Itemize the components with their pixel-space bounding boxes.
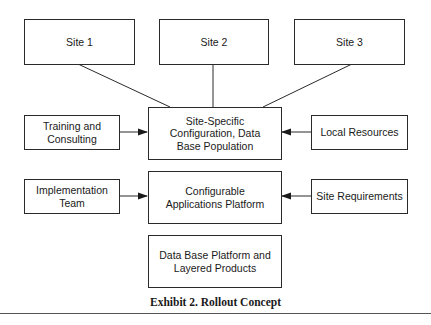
implementation-team-box: Implementation Team <box>24 179 120 214</box>
database-platform-box: Data Base Platform and Layered Products <box>148 235 282 288</box>
site-1-label: Site 1 <box>66 36 93 49</box>
site-requirements-box: Site Requirements <box>311 179 408 214</box>
site-3-label: Site 3 <box>336 36 363 49</box>
site-specific-config-box: Site-Specific Configuration, Data Base P… <box>148 107 282 160</box>
caption-rule-divider <box>0 313 431 314</box>
site-2-label: Site 2 <box>201 36 228 49</box>
training-consulting-box: Training and Consulting <box>24 115 120 150</box>
connector-site1 <box>78 64 170 107</box>
configurable-platform-box: Configurable Applications Platform <box>148 171 282 224</box>
figure-caption: Exhibit 2. Rollout Concept <box>0 296 431 308</box>
site-2-box: Site 2 <box>159 19 269 65</box>
local-resources-box: Local Resources <box>311 115 408 150</box>
site-requirements-label: Site Requirements <box>316 190 402 203</box>
local-resources-label: Local Resources <box>320 126 398 139</box>
training-consulting-label: Training and Consulting <box>43 120 101 145</box>
configurable-platform-label: Configurable Applications Platform <box>166 185 265 210</box>
database-platform-label: Data Base Platform and Layered Products <box>159 249 270 274</box>
site-3-box: Site 3 <box>294 19 405 65</box>
site-specific-config-label: Site-Specific Configuration, Data Base P… <box>170 115 260 153</box>
rollout-concept-diagram: Site 1 Site 2 Site 3 Training and Consul… <box>0 0 431 325</box>
connector-site3 <box>263 64 352 107</box>
implementation-team-label: Implementation Team <box>36 184 108 209</box>
site-1-box: Site 1 <box>24 19 135 65</box>
